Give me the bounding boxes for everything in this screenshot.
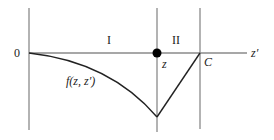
- diagram-canvas: 0 I II z C z′ f(z, z′): [0, 0, 274, 140]
- point-z-label: z: [161, 57, 167, 71]
- origin-label: 0: [14, 46, 20, 60]
- axis-z-prime-label: z′: [250, 46, 259, 60]
- curve-f-label: f(z, z′): [66, 74, 95, 88]
- point-z-dot: [153, 49, 162, 58]
- region-ii-label: II: [172, 33, 180, 47]
- boundary-c-label: C: [204, 55, 213, 69]
- region-i-label: I: [107, 33, 111, 47]
